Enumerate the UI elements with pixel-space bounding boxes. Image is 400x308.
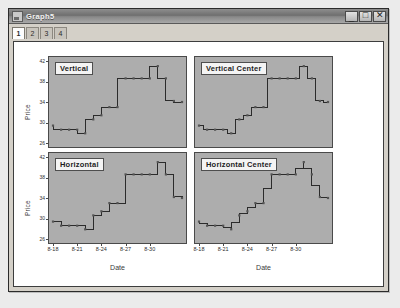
ytick-label: 26 bbox=[32, 237, 45, 242]
ytick-label: 38 bbox=[32, 79, 45, 84]
xtick-mark bbox=[199, 244, 200, 246]
ytick-label: 34 bbox=[32, 196, 45, 201]
xtick-label: 8-24 bbox=[90, 246, 112, 252]
xtick-label: 8-18 bbox=[42, 246, 64, 252]
xtick-label: 8-30 bbox=[285, 246, 307, 252]
xtick-mark bbox=[150, 244, 151, 246]
ytick-label: 42 bbox=[32, 59, 45, 64]
ytick-mark bbox=[46, 219, 48, 220]
ytick-mark bbox=[46, 239, 48, 240]
close-icon: ✕ bbox=[374, 11, 385, 20]
ytick-label: 30 bbox=[32, 120, 45, 125]
xtick-mark bbox=[223, 244, 224, 246]
tab-3[interactable]: 3 bbox=[40, 27, 53, 39]
ytick-label: 26 bbox=[32, 141, 45, 146]
xtick-mark bbox=[272, 244, 273, 246]
ytick-mark bbox=[46, 102, 48, 103]
graph-canvas[interactable]: Vertical Price Vertical Center Horizonta… bbox=[13, 41, 384, 287]
desktop-backdrop: Graph5 _ □ ✕ 1 2 3 4 bbox=[0, 0, 400, 308]
tab-strip: 1 2 3 4 bbox=[9, 24, 388, 39]
xtick-mark bbox=[101, 244, 102, 246]
ytick-label: 42 bbox=[32, 155, 45, 160]
ytick-mark bbox=[46, 157, 48, 158]
minimize-icon: _ bbox=[346, 13, 357, 22]
xtick-label: 8-24 bbox=[236, 246, 258, 252]
xtick-label: 8-27 bbox=[115, 246, 137, 252]
ytick-mark bbox=[46, 82, 48, 83]
chart-document-icon bbox=[12, 11, 23, 22]
xtick-mark bbox=[296, 244, 297, 246]
axis-tick-layer: 263034384226303438428-188-218-248-278-30… bbox=[14, 42, 383, 286]
window-titlebar[interactable]: Graph5 _ □ ✕ bbox=[9, 9, 388, 24]
ytick-mark bbox=[46, 198, 48, 199]
xtick-mark bbox=[126, 244, 127, 246]
ytick-label: 34 bbox=[32, 100, 45, 105]
xtick-mark bbox=[53, 244, 54, 246]
plot-grid: Vertical Price Vertical Center Horizonta… bbox=[14, 42, 383, 286]
xtick-mark bbox=[77, 244, 78, 246]
tab-4[interactable]: 4 bbox=[54, 27, 67, 39]
ytick-mark bbox=[46, 143, 48, 144]
window-title: Graph5 bbox=[26, 12, 344, 21]
minimize-button[interactable]: _ bbox=[345, 11, 358, 22]
application-window: Graph5 _ □ ✕ 1 2 3 4 bbox=[8, 8, 389, 292]
xtick-label: 8-21 bbox=[66, 246, 88, 252]
maximize-icon: □ bbox=[360, 11, 371, 20]
xtick-label: 8-30 bbox=[139, 246, 161, 252]
maximize-button[interactable]: □ bbox=[359, 11, 372, 22]
xtick-label: 8-27 bbox=[261, 246, 283, 252]
xtick-mark bbox=[247, 244, 248, 246]
ytick-mark bbox=[46, 123, 48, 124]
ytick-mark bbox=[46, 61, 48, 62]
xtick-label: 8-18 bbox=[188, 246, 210, 252]
ytick-label: 30 bbox=[32, 216, 45, 221]
ytick-mark bbox=[46, 178, 48, 179]
xtick-label: 8-21 bbox=[212, 246, 234, 252]
close-button[interactable]: ✕ bbox=[373, 11, 386, 22]
ytick-label: 38 bbox=[32, 175, 45, 180]
tab-2[interactable]: 2 bbox=[26, 27, 39, 39]
tab-1[interactable]: 1 bbox=[12, 27, 25, 39]
